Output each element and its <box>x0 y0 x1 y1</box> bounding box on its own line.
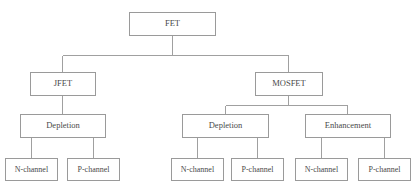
node-mos-enh-n-label: N-channel <box>305 165 339 174</box>
node-mosfet-depletion[interactable]: Depletion <box>183 115 269 138</box>
node-mos-dep-n-label: N-channel <box>181 165 215 174</box>
node-jfet[interactable]: JFET <box>31 73 96 96</box>
tree-svg: FET JFET MOSFET Depletion Depletion Enha… <box>0 0 411 187</box>
node-mosfet-depletion-label: Depletion <box>209 120 243 130</box>
node-mosfet[interactable]: MOSFET <box>256 73 323 96</box>
node-mosfet-depletion-p-channel[interactable]: P-channel <box>232 159 284 181</box>
node-mos-dep-p-label: P-channel <box>242 165 275 174</box>
node-jfet-dep-n-label: N-channel <box>15 165 49 174</box>
node-fet-label: FET <box>165 18 181 28</box>
connector-layer <box>32 36 385 159</box>
node-mosfet-enhancement-p-channel[interactable]: P-channel <box>359 159 411 181</box>
node-jfet-dep-p-label: P-channel <box>78 165 111 174</box>
node-jfet-depletion[interactable]: Depletion <box>21 115 106 138</box>
node-mosfet-depletion-n-channel[interactable]: N-channel <box>172 159 224 181</box>
node-jfet-depletion-n-channel[interactable]: N-channel <box>6 159 58 181</box>
node-mosfet-label: MOSFET <box>272 78 306 88</box>
node-jfet-depletion-label: Depletion <box>46 120 80 130</box>
node-jfet-depletion-p-channel[interactable]: P-channel <box>68 159 120 181</box>
node-fet[interactable]: FET <box>130 13 216 36</box>
node-mosfet-enhancement[interactable]: Enhancement <box>306 115 391 138</box>
node-mos-enh-p-label: P-channel <box>369 165 402 174</box>
node-mosfet-enhancement-n-channel[interactable]: N-channel <box>296 159 348 181</box>
node-jfet-label: JFET <box>54 78 73 88</box>
fet-classification-diagram: FET JFET MOSFET Depletion Depletion Enha… <box>0 0 411 187</box>
node-mosfet-enhancement-label: Enhancement <box>325 120 372 130</box>
